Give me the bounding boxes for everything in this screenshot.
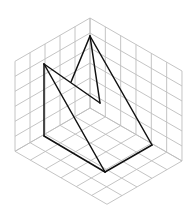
grid-line [107, 161, 182, 204]
shape-edge-left_bottom-bottom [44, 136, 105, 172]
isometric-diagram [0, 0, 189, 217]
grid-line [61, 134, 136, 177]
diagram-canvas [0, 0, 189, 217]
grid-line [76, 143, 151, 186]
shape-edge-apex-hidden_meet [71, 36, 90, 82]
shape-edge-notch-left_top [44, 64, 100, 103]
shape-edge-bottom-right [105, 145, 152, 172]
isometric-grid [15, 18, 182, 204]
